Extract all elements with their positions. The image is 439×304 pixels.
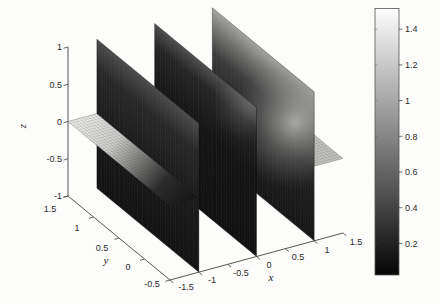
x-tick-label: -1.5 — [178, 282, 194, 292]
y-tick-label: -0.5 — [144, 279, 160, 289]
y-axis-label: y — [103, 254, 109, 266]
y-tick-label: 0.5 — [96, 243, 109, 253]
x-tick-label: 0 — [266, 260, 271, 270]
slice-plot-svg: 1 0.5 0 -0.5 -1 1.5 1 0.5 0 -0.5 -1.5 -1… — [0, 0, 439, 304]
x-tick-label: -1 — [208, 275, 216, 285]
colorbar-tick-label: 0.4 — [405, 203, 418, 213]
x-tick-label: 1 — [324, 245, 329, 255]
z-axis-label: z — [16, 123, 28, 129]
x-tick-label: -0.5 — [233, 268, 249, 278]
x-tick-label: 1.5 — [350, 237, 363, 247]
colorbar-tick-label: 1.4 — [405, 24, 418, 34]
x-tick-label: 0.5 — [292, 252, 305, 262]
figure-canvas: 1 0.5 0 -0.5 -1 1.5 1 0.5 0 -0.5 -1.5 -1… — [0, 0, 439, 304]
z-tick-label: 0.5 — [49, 80, 62, 90]
y-tick-label: 1.5 — [44, 204, 57, 214]
z-tick-label: 1 — [57, 42, 62, 52]
colorbar-tick-label: 1 — [405, 96, 410, 106]
y-tick-label: 0 — [125, 262, 130, 272]
colorbar-tick-label: 0.2 — [405, 239, 418, 249]
y-tick-label: 1 — [74, 223, 79, 233]
colorbar-tick-label: 1.2 — [405, 60, 418, 70]
z-tick-label: 0 — [57, 117, 62, 127]
colorbar-tick-label: 0.8 — [405, 132, 418, 142]
z-tick-label: -1 — [54, 191, 62, 201]
colorbar-tick-label: 0.6 — [405, 167, 418, 177]
z-tick-label: -0.5 — [46, 154, 62, 164]
colorbar-gradient — [375, 9, 399, 276]
x-axis-label: x — [268, 271, 274, 283]
